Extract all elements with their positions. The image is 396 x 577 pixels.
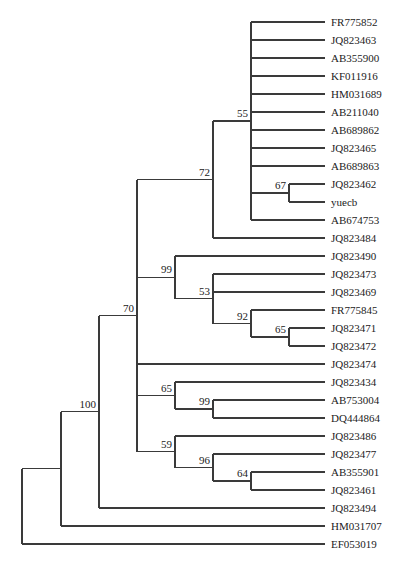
taxon-label: DQ444864: [331, 412, 380, 424]
taxon-label: JQ823490: [331, 250, 377, 262]
taxon-label: KF011916: [331, 70, 378, 82]
taxon-label: JQ823469: [331, 286, 377, 298]
taxon-label: AB211040: [331, 106, 379, 118]
taxon-label: JQ823474: [331, 358, 377, 370]
taxon-label: AB355900: [331, 52, 380, 64]
bootstrap-value: 55: [237, 107, 249, 119]
bootstrap-value: 59: [161, 438, 173, 450]
bootstrap-value: 92: [237, 310, 248, 322]
taxon-label: HM031707: [331, 520, 382, 532]
taxon-label: FR775852: [331, 16, 377, 28]
bootstrap-value: 99: [161, 263, 173, 275]
taxon-label: AB674753: [331, 214, 380, 226]
taxon-label: JQ823494: [331, 502, 377, 514]
taxon-label: AB689862: [331, 124, 379, 136]
taxon-label: JQ823477: [331, 448, 377, 460]
taxon-label: JQ823471: [331, 322, 376, 334]
taxon-label: JQ823434: [331, 376, 377, 388]
taxon-label: JQ823462: [331, 178, 376, 190]
taxon-label: JQ823484: [331, 232, 377, 244]
taxon-label: JQ823461: [331, 484, 376, 496]
taxon-label: EF053019: [331, 538, 377, 550]
taxon-label: JQ823465: [331, 142, 377, 154]
bootstrap-value: 65: [161, 382, 173, 394]
bootstrap-value: 100: [80, 398, 97, 410]
bootstrap-value: 70: [123, 302, 135, 314]
phylogenetic-tree: FR775852JQ823463AB355900KF011916HM031689…: [0, 0, 396, 577]
taxon-label: AB355901: [331, 466, 379, 478]
bootstrap-value: 64: [237, 467, 249, 479]
taxon-label: HM031689: [331, 88, 382, 100]
bootstrap-value: 67: [275, 179, 287, 191]
bootstrap-value: 99: [199, 395, 211, 407]
bootstrap-value: 65: [275, 323, 287, 335]
taxon-label: JQ823472: [331, 340, 376, 352]
taxon-label: JQ823473: [331, 268, 377, 280]
bootstrap-value: 53: [199, 285, 211, 297]
bootstrap-value: 96: [199, 454, 211, 466]
taxon-label: FR775845: [331, 304, 378, 316]
bootstrap-value: 72: [199, 166, 210, 178]
taxon-label: AB689863: [331, 160, 380, 172]
taxon-label: yuecb: [331, 196, 358, 208]
taxon-label: AB753004: [331, 394, 380, 406]
taxon-label: JQ823486: [331, 430, 377, 442]
taxon-label: JQ823463: [331, 34, 377, 46]
